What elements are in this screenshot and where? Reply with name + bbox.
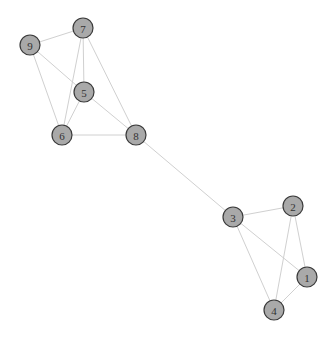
edge-8-3 [136, 135, 233, 217]
edge-3-4 [233, 217, 274, 310]
edges-layer [30, 28, 307, 310]
node-label: 5 [81, 87, 87, 99]
node-7: 7 [73, 18, 93, 38]
edge-7-8 [83, 28, 136, 135]
nodes-layer: 123456789 [20, 18, 317, 320]
node-label: 6 [59, 130, 65, 142]
node-3: 3 [223, 207, 243, 227]
node-label: 1 [304, 272, 310, 284]
node-8: 8 [126, 125, 146, 145]
network-graph: 123456789 [0, 0, 335, 343]
edge-7-6 [62, 28, 83, 135]
node-label: 9 [27, 40, 33, 52]
edge-3-1 [233, 217, 307, 277]
node-9: 9 [20, 35, 40, 55]
node-6: 6 [52, 125, 72, 145]
node-label: 2 [290, 201, 296, 213]
node-2: 2 [283, 196, 303, 216]
node-5: 5 [74, 82, 94, 102]
node-4: 4 [264, 300, 284, 320]
node-label: 8 [133, 130, 139, 142]
node-1: 1 [297, 267, 317, 287]
edge-2-1 [293, 206, 307, 277]
node-label: 7 [80, 23, 86, 35]
node-label: 3 [230, 212, 236, 224]
node-label: 4 [271, 305, 277, 317]
